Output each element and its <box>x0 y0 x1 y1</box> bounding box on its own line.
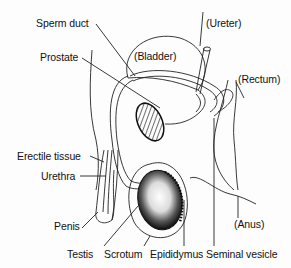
label-penis: Penis <box>54 220 80 232</box>
body-outline <box>90 50 98 190</box>
label-scrotum: Scrotum <box>104 248 142 260</box>
label-bladder: (Bladder) <box>134 50 176 62</box>
testis-shape <box>133 167 187 234</box>
label-epididymus: Epididymus <box>150 248 203 260</box>
label-urethra: Urethra <box>41 170 75 182</box>
label-erectile-tissue: Erectile tissue <box>17 150 81 162</box>
label-ureter: (Ureter) <box>206 17 241 29</box>
label-prostate: Prostate <box>40 51 78 63</box>
label-rectum: (Rectum) <box>238 73 280 85</box>
label-testis: Testis <box>67 248 93 260</box>
label-seminal-vesicle: Seminal vesicle <box>206 248 277 260</box>
label-anus: (Anus) <box>234 218 264 230</box>
label-sperm-duct: Sperm duct <box>36 17 89 29</box>
diagram-canvas: Sperm duct (Ureter) (Bladder) Prostate (… <box>0 0 291 268</box>
prostate-hatched-shape <box>131 99 170 145</box>
